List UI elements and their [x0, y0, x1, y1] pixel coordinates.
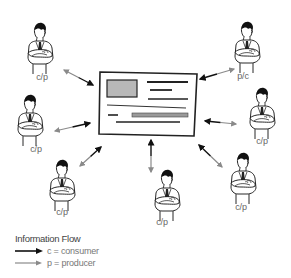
person-icon — [155, 170, 180, 221]
node-label-right-middle: c/p — [256, 136, 267, 146]
shared-document — [99, 72, 197, 136]
node-label-bottom-right: c/p — [235, 202, 246, 212]
flow-arrow — [55, 123, 90, 131]
person-icon — [231, 153, 256, 204]
flow-arrow — [80, 147, 101, 166]
person-icon — [18, 95, 43, 146]
flow-arrow — [200, 69, 234, 79]
consumer-arrow-icon — [15, 247, 43, 255]
person-icon — [250, 88, 275, 139]
flow-arrow — [205, 121, 236, 124]
document-image-block — [107, 80, 137, 97]
node-label-top-right: p/c — [237, 71, 248, 81]
legend-title: Information Flow — [15, 233, 99, 244]
legend-label-consumer: c = consumer — [47, 246, 99, 256]
producer-arrow-icon — [15, 259, 43, 267]
legend-label-producer: p = producer — [47, 258, 95, 268]
person-icon — [235, 22, 260, 73]
legend: Information Flow c = consumer p = produc… — [15, 233, 99, 268]
node-label-left-middle: c/p — [30, 144, 41, 154]
person-icon — [28, 23, 53, 74]
flow-arrow — [199, 145, 222, 167]
node-label-top-left: c/p — [36, 72, 47, 82]
person-icon — [50, 160, 75, 211]
flow-arrow — [64, 70, 93, 85]
legend-item-consumer: c = consumer — [15, 245, 99, 256]
node-label-bottom-left: c/p — [56, 207, 67, 217]
node-label-bottom-center: c/p — [156, 217, 167, 227]
legend-item-producer: p = producer — [15, 257, 99, 268]
